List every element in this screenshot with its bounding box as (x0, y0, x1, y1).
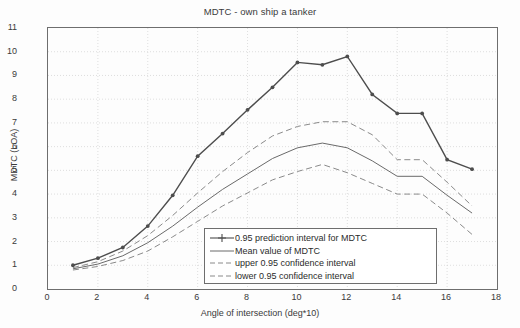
x-axis-label: Angle of intersection (deg*10) (0, 308, 520, 318)
y-tick-label: 6 (12, 141, 17, 151)
y-tick-label: 8 (12, 93, 17, 103)
y-axis-label: MDTC (LOA) (9, 85, 19, 225)
x-tick-label: 2 (94, 292, 99, 302)
legend-item[interactable]: upper 0.95 confidence interval (209, 257, 432, 270)
x-tick-label: 6 (194, 292, 199, 302)
chart-title: MDTC - own ship a tanker (0, 6, 520, 17)
legend-symbol-solid-line-with-marker (209, 232, 235, 244)
legend-item[interactable]: Mean value of MDTC (209, 245, 432, 258)
x-tick-label: 10 (291, 292, 301, 302)
x-tick-label: 8 (244, 292, 249, 302)
y-tick-label: 11 (8, 22, 17, 32)
y-tick-label: 5 (12, 164, 17, 174)
legend-item-label: Mean value of MDTC (235, 245, 320, 257)
legend-item-label: lower 0.95 confidence interval (235, 270, 354, 282)
x-tick-label: 18 (491, 292, 501, 302)
y-tick-label: 9 (12, 69, 17, 79)
x-tick-label: 4 (144, 292, 149, 302)
legend-item[interactable]: lower 0.95 confidence interval (209, 270, 432, 283)
legend-symbol-solid-line (209, 245, 235, 257)
y-tick-label: 2 (12, 236, 17, 246)
y-tick-label: 4 (12, 188, 17, 198)
legend-item-label: upper 0.95 confidence interval (235, 257, 356, 269)
legend-item-label: 0.95 prediction interval for MDTC (235, 232, 367, 244)
y-tick-label: 3 (12, 212, 17, 222)
x-tick-label: 16 (441, 292, 451, 302)
legend-symbol-dashed-line (209, 270, 235, 282)
legend-item[interactable]: 0.95 prediction interval for MDTC (209, 232, 432, 245)
y-tick-label: 10 (7, 46, 17, 56)
chart-legend: 0.95 prediction interval for MDTC Mean v… (204, 228, 437, 284)
legend-symbol-dashed-line (209, 257, 235, 269)
y-tick-label: 0 (12, 283, 17, 293)
x-tick-label: 14 (391, 292, 401, 302)
chart-figure: MDTC - own ship a tanker MDTC (LOA) Angl… (0, 0, 520, 328)
y-tick-label: 1 (12, 259, 17, 269)
x-tick-label: 0 (44, 292, 49, 302)
x-tick-label: 12 (341, 292, 351, 302)
y-tick-label: 7 (12, 117, 17, 127)
